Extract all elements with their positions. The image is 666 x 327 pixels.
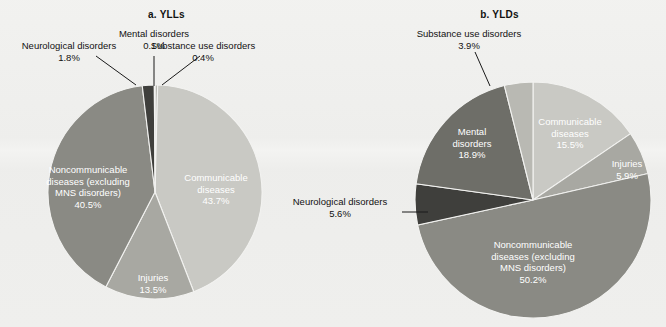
label-noncommunicable-yll-l1: Noncommunicable — [49, 164, 128, 175]
label-noncommunicable-yld-l2: diseases (excluding — [480, 251, 586, 263]
label-substance-yll-name: Substance use disorders — [151, 40, 256, 51]
label-communicable-yld-pct: 15.5% — [524, 139, 616, 151]
label-noncommunicable-yld-pct: 50.2% — [480, 274, 586, 286]
label-neurological-yld-name: Neurological disorders — [293, 196, 388, 207]
label-noncommunicable-yll-pct: 40.5% — [35, 199, 141, 211]
label-communicable-yld-l1: Communicable — [538, 116, 601, 127]
label-substance-yll: Substance use disorders 0.4% — [140, 40, 266, 63]
label-communicable-yll-pct: 43.7% — [170, 195, 262, 207]
label-communicable-yll-l1: Communicable — [184, 172, 247, 183]
label-injuries-yld-pct: 5.9% — [596, 170, 658, 182]
label-neurological-yld-pct: 5.6% — [278, 208, 402, 220]
label-injuries-yll-pct: 13.5% — [122, 284, 184, 296]
label-injuries-yld-l1: Injuries — [612, 158, 643, 169]
label-neurological-yll-pct: 1.8% — [4, 52, 134, 64]
label-noncommunicable-yll: Noncommunicable diseases (excluding MNS … — [35, 164, 141, 210]
label-mental-yld-l1: Mental — [458, 126, 487, 137]
label-mental-yld: Mental disorders 18.9% — [437, 126, 507, 161]
label-communicable-yll-l2: diseases — [170, 184, 262, 196]
label-communicable-yld-l2: diseases — [524, 128, 616, 140]
panel-title-yll: a. YLLs — [0, 9, 333, 20]
panel-title-yld: b. YLDs — [333, 9, 666, 20]
label-noncommunicable-yld-l3: MNS disorders) — [480, 262, 586, 274]
label-injuries-yll: Injuries 13.5% — [122, 272, 184, 295]
label-neurological-yll-name: Neurological disorders — [22, 40, 117, 51]
label-noncommunicable-yll-l3: MNS disorders) — [35, 187, 141, 199]
label-communicable-yll: Communicable diseases 43.7% — [170, 172, 262, 207]
label-mental-yld-l2: disorders — [437, 138, 507, 150]
label-substance-yld-name: Substance use disorders — [417, 28, 522, 39]
label-substance-yld-pct: 3.9% — [406, 40, 532, 52]
label-communicable-yld: Communicable diseases 15.5% — [524, 116, 616, 151]
label-injuries-yld: Injuries 5.9% — [596, 158, 658, 181]
label-mental-yll-name: Mental disorders — [119, 28, 189, 39]
label-substance-yld: Substance use disorders 3.9% — [406, 28, 532, 51]
label-noncommunicable-yll-l2: diseases (excluding — [35, 176, 141, 188]
label-mental-yld-pct: 18.9% — [437, 149, 507, 161]
label-noncommunicable-yld-l1: Noncommunicable — [494, 239, 573, 250]
label-injuries-yll-l1: Injuries — [138, 272, 169, 283]
label-neurological-yld: Neurological disorders 5.6% — [278, 196, 402, 219]
label-noncommunicable-yld: Noncommunicable diseases (excluding MNS … — [480, 239, 586, 285]
label-substance-yll-pct: 0.4% — [140, 52, 266, 64]
